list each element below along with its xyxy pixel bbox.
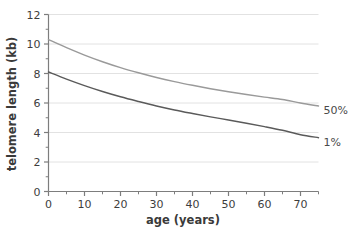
y-tick-label-12: 12 bbox=[27, 9, 41, 22]
y-tick-label-8: 8 bbox=[34, 68, 41, 81]
y-tick-label-6: 6 bbox=[34, 97, 41, 110]
x-tick-label-70: 70 bbox=[294, 198, 308, 211]
x-tick-label-50: 50 bbox=[222, 198, 236, 211]
x-axis-title: age (years) bbox=[146, 213, 220, 227]
x-tick-label-0: 0 bbox=[45, 198, 52, 211]
chart-figure: 024681012 010203040506070 50%1% age (yea… bbox=[0, 0, 358, 235]
x-tick-label-20: 20 bbox=[114, 198, 128, 211]
y-axis-title: telomere length (kb) bbox=[5, 37, 19, 172]
y-tick-label-10: 10 bbox=[27, 38, 41, 51]
x-tick-label-30: 30 bbox=[150, 198, 164, 211]
x-tick-label-60: 60 bbox=[258, 198, 272, 211]
y-tick-label-2: 2 bbox=[34, 156, 41, 169]
x-tick-label-10: 10 bbox=[78, 198, 92, 211]
series-label-50pct: 50% bbox=[324, 104, 348, 117]
y-tick-label-0: 0 bbox=[34, 186, 41, 199]
y-tick-label-4: 4 bbox=[34, 127, 41, 140]
series-label-1pct: 1% bbox=[324, 136, 341, 149]
telomere-length-line-chart: 024681012 010203040506070 50%1% age (yea… bbox=[0, 0, 358, 235]
x-tick-label-40: 40 bbox=[186, 198, 200, 211]
